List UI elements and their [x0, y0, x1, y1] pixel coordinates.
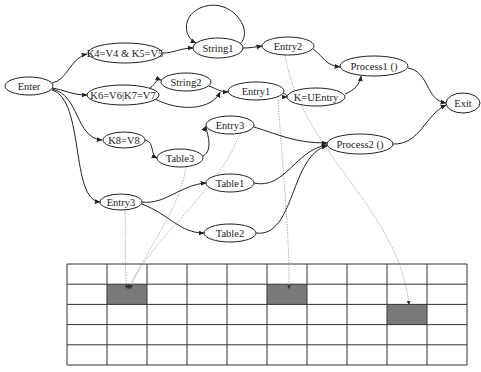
node-label: K=UEntry [294, 92, 339, 103]
edge-kuentry-to-process1 [345, 76, 361, 94]
node-label: Table2 [216, 228, 244, 239]
node-label: K4=V4 & K5=V5 [87, 48, 164, 59]
node-label: Exit [454, 98, 472, 109]
edge-entry3a-to-process2 [254, 127, 327, 143]
edge-process1-to-exit [408, 68, 446, 103]
node-string1[interactable]: String1 [193, 38, 243, 58]
node-entry3a[interactable]: Entry3 [206, 116, 254, 134]
edge-enter-to-k4k5 [52, 54, 87, 83]
node-kuentry[interactable]: K=UEntry [287, 88, 345, 106]
node-entry3b[interactable]: Entry3 [100, 194, 142, 210]
edge-k8-to-table3 [145, 140, 157, 158]
node-label: String1 [203, 43, 234, 54]
shaded-cell [267, 284, 307, 304]
node-entry2[interactable]: Entry2 [262, 37, 314, 55]
edge-entry1-to-kuentry [283, 93, 287, 97]
node-k6k7[interactable]: K6=V6|K7=V7 [87, 85, 159, 105]
node-process2[interactable]: Process2 () [327, 134, 393, 154]
edge-k6k7-to-string2 [150, 80, 161, 88]
node-label: Entry3 [107, 197, 136, 208]
dotted-edge-entry3b-to-cell-r1c1 [125, 210, 127, 289]
edge-table1-to-process2 [254, 145, 327, 184]
shaded-cell [387, 304, 427, 324]
node-process1[interactable]: Process1 () [340, 56, 408, 76]
node-label: String2 [171, 77, 202, 88]
dotted-edge-entry1-to-cell-r1c5 [278, 100, 289, 289]
edge-k6k7-to-entry1 [155, 92, 220, 107]
edge-string2-to-entry1 [209, 86, 228, 92]
memory-grid [67, 264, 467, 365]
edge-table2-to-process2 [256, 146, 327, 233]
node-table1[interactable]: Table1 [206, 174, 254, 192]
node-label: Entry1 [242, 86, 271, 97]
node-k4k5[interactable]: K4=V4 & K5=V5 [87, 43, 164, 63]
node-label: Table3 [166, 153, 194, 164]
edge-enter-to-entry3b [52, 90, 100, 202]
node-table2[interactable]: Table2 [204, 224, 256, 242]
node-exit[interactable]: Exit [446, 93, 480, 113]
edge-k4k5-to-string1 [162, 48, 193, 53]
node-label: Entry2 [274, 41, 303, 52]
edge-enter-to-k6k7 [52, 88, 87, 95]
edge-table3-to-entry3a [203, 126, 209, 156]
node-label: Process1 () [351, 61, 398, 73]
node-table3[interactable]: Table3 [157, 149, 203, 167]
edge-entry3b-to-table1 [142, 183, 206, 202]
node-label: K8=V8 [108, 135, 140, 146]
edge-entry3b-to-table2 [142, 204, 204, 233]
edge-process2-to-exit [393, 105, 446, 144]
node-label: Enter [18, 81, 41, 92]
dotted-edge-table3-to-cell-r1c1 [130, 167, 186, 289]
node-string2[interactable]: String2 [161, 73, 211, 91]
node-entry1[interactable]: Entry1 [228, 82, 284, 100]
node-label: K6=V6|K7=V7 [90, 90, 155, 101]
node-enter[interactable]: Enter [5, 77, 53, 95]
shaded-cell [107, 284, 147, 304]
edge-string1-to-entry2 [243, 46, 262, 48]
edge-entry2-to-process1 [313, 49, 340, 67]
node-label: Entry3 [216, 120, 245, 131]
node-label: Table1 [216, 178, 244, 189]
node-k8[interactable]: K8=V8 [103, 132, 145, 148]
flow-diagram: EnterK4=V4 & K5=V5K6=V6|K7=V7String1Stri… [0, 0, 481, 372]
node-label: Process2 () [337, 139, 384, 151]
